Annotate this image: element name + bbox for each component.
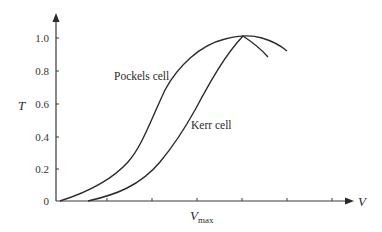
kerr-annotation: Kerr cell: [191, 119, 232, 131]
y-tick-0.4: 0.4: [35, 131, 49, 143]
x-axis-label: V: [358, 194, 368, 209]
y-tick-0.6: 0.6: [35, 98, 49, 110]
pockels-curve: [60, 36, 287, 201]
pockels-annotation: Pockels cell: [114, 70, 169, 82]
y-axis-label: T: [18, 98, 26, 113]
kerr-curve: [88, 36, 268, 201]
y-axis-arrow-icon: [53, 13, 60, 22]
x-axis-arrow-icon: [345, 198, 354, 205]
y-tick-0: 0: [44, 195, 50, 207]
y-tick-0.8: 0.8: [35, 65, 49, 77]
y-tick-0.2: 0.2: [35, 163, 49, 175]
y-tick-1.0: 1.0: [35, 32, 49, 44]
vmax-label: Vmax: [190, 208, 214, 225]
chart-canvas: 0 0.2 0.4 0.6 0.8 1.0 T V Vmax Pockels c…: [0, 0, 382, 232]
